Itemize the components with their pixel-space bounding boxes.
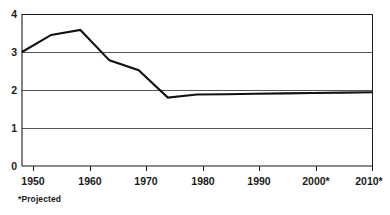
x-tick-label-1970: 1970 — [134, 175, 158, 187]
y-tick-labels: 4 3 2 1 0 — [11, 8, 17, 172]
y-tick-label-3: 3 — [11, 46, 17, 58]
x-tick-label-2010: 2010* — [355, 175, 383, 187]
line-chart: 4 3 2 1 0 1950 1960 1970 1980 1990 2000*… — [0, 0, 390, 215]
y-tick-label-0: 0 — [11, 160, 17, 172]
gridlines — [22, 52, 372, 128]
x-tick-label-1990: 1990 — [247, 175, 271, 187]
x-tick-label-1960: 1960 — [78, 175, 102, 187]
y-tick-label-4: 4 — [11, 8, 17, 20]
y-tick-label-2: 2 — [11, 84, 17, 96]
data-series-line — [22, 30, 372, 98]
y-tick-label-1: 1 — [11, 122, 17, 134]
x-tick-label-1980: 1980 — [191, 175, 215, 187]
x-tick-marks — [33, 166, 372, 171]
x-tick-labels: 1950 1960 1970 1980 1990 2000* 2010* — [21, 175, 383, 187]
chart-container: 4 3 2 1 0 1950 1960 1970 1980 1990 2000*… — [0, 0, 390, 215]
chart-footnote: *Projected — [18, 194, 61, 204]
x-tick-label-1950: 1950 — [21, 175, 45, 187]
x-tick-label-2000: 2000* — [302, 175, 330, 187]
